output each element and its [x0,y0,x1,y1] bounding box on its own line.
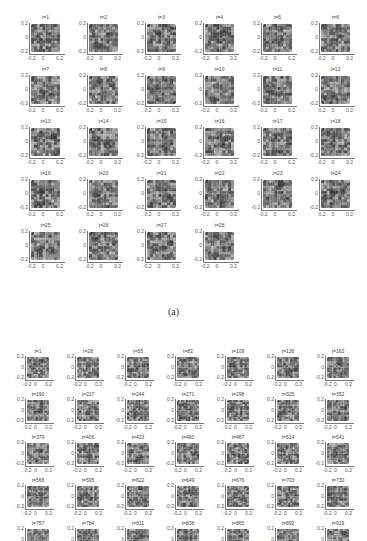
texture-image [177,443,199,464]
x-tick-label: 0 [42,263,45,269]
subplot-title: t=21 [142,170,182,176]
x-tick-label: 0.2 [345,467,352,473]
y-tick-label: -0.2 [306,204,318,210]
texture-image [89,76,118,104]
panel_b-subplot: t=6760.20-0.2-0.200.2 [210,477,260,520]
texture-image [147,24,176,52]
x-tick-label: 0 [216,263,219,269]
texture-image [321,128,350,156]
y-tick-label: 0 [62,536,74,541]
x-tick-label: 0 [158,55,161,61]
x-tick-label: 0.2 [245,510,252,516]
x-tick-label: 0.2 [230,263,237,269]
subplot-title: t=298 [218,391,258,397]
x-tick-label: 0 [332,211,335,217]
subplot-title: t=5 [258,14,298,20]
y-tick-label: 0 [262,536,274,541]
subplot-title: t=757 [18,520,58,526]
y-tick-label: 0 [262,407,274,413]
x-tick-label: 0.2 [114,159,121,165]
subplot-title: t=838 [168,520,208,526]
y-tick-label: -0.2 [16,152,28,158]
panel_b-subplot: t=10.20-0.2-0.200.2 [10,348,60,391]
x-tick-label: -0.2 [143,55,152,61]
y-tick-label: -0.2 [312,503,324,509]
x-tick-label: 0.2 [145,510,152,516]
y-tick-label: 0.2 [312,353,324,359]
y-tick-label: 0.2 [74,20,86,26]
panel_a-subplot: t=20.20-0.2-0.200.2 [70,14,128,66]
y-tick-label: -0.2 [132,100,144,106]
x-tick-label: -0.2 [143,263,152,269]
texture-image [177,400,199,421]
subplot-title: t=15 [142,118,182,124]
x-tick-label: 0 [34,381,37,387]
x-tick-label: -0.2 [73,467,82,473]
y-tick-label: -0.2 [74,48,86,54]
panel_b-subplot: t=1630.20-0.2-0.200.2 [310,348,360,391]
x-tick-label: -0.2 [73,424,82,430]
y-tick-label: 0.2 [306,72,318,78]
y-tick-label: -0.2 [62,374,74,380]
y-tick-label: -0.2 [132,48,144,54]
texture-image [27,357,49,378]
y-tick-label: 0.2 [62,525,74,531]
panel_a-subplot: t=240.20-0.2-0.200.2 [302,170,360,222]
y-tick-label: -0.2 [62,417,74,423]
subplot-title: t=24 [316,170,356,176]
x-tick-label: -0.2 [259,107,268,113]
subplot-title: t=1 [18,348,58,354]
y-tick-label: -0.2 [12,417,24,423]
x-tick-label: 0 [184,424,187,430]
x-tick-label: 0.2 [230,55,237,61]
y-tick-label: 0 [112,364,124,370]
y-tick-label: 0.2 [162,482,174,488]
panel_b-subplot: t=550.20-0.2-0.200.2 [110,348,160,391]
y-tick-label: -0.2 [162,503,174,509]
y-tick-label: 0 [162,364,174,370]
y-tick-label: 0.2 [16,228,28,234]
panel_a-subplot: t=150.20-0.2-0.200.2 [128,118,186,170]
x-tick-label: 0.2 [346,211,353,217]
x-tick-label: -0.2 [27,159,36,165]
y-tick-label: 0.2 [312,482,324,488]
x-tick-label: -0.2 [85,55,94,61]
x-tick-label: 0 [84,467,87,473]
texture-image [89,128,118,156]
y-tick-label: 0 [132,86,144,92]
y-tick-label: 0.2 [248,124,260,130]
subplot-title: t=2 [84,14,124,20]
panel_b-subplot: t=5140.20-0.2-0.200.2 [260,434,310,477]
y-tick-label: -0.2 [212,417,224,423]
x-tick-label: 0.2 [288,55,295,61]
y-tick-label: -0.2 [112,417,124,423]
subplot-title: t=28 [68,348,108,354]
x-tick-label: 0 [134,510,137,516]
x-tick-label: 0.2 [295,510,302,516]
texture-image [31,232,60,260]
y-tick-label: -0.2 [248,48,260,54]
subplot-title: t=27 [142,222,182,228]
subplot-title: t=11 [258,66,298,72]
subplot-title: t=676 [218,477,258,483]
x-tick-label: 0 [100,107,103,113]
x-tick-label: 0 [42,159,45,165]
x-tick-label: -0.2 [73,381,82,387]
y-tick-label: 0.2 [212,439,224,445]
subplot-title: t=919 [318,520,358,526]
y-tick-label: -0.2 [162,374,174,380]
x-tick-label: 0.2 [295,467,302,473]
y-tick-label: 0 [212,407,224,413]
y-tick-label: 0 [262,450,274,456]
x-tick-label: -0.2 [143,107,152,113]
y-tick-label: -0.2 [112,374,124,380]
texture-image [177,486,199,507]
y-tick-label: 0 [162,493,174,499]
x-tick-label: 0.2 [56,55,63,61]
subplot-title: t=541 [318,434,358,440]
subplot-title: t=163 [318,348,358,354]
x-tick-label: 0 [334,381,337,387]
panel_b-subplot: t=8920.20-0.2-0.200.2 [260,520,310,541]
texture-image [27,529,49,541]
panel_b-subplot: t=2440.20-0.2-0.200.2 [110,391,160,434]
